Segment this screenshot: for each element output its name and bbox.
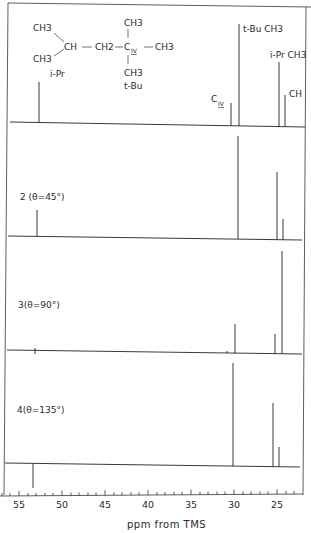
tick-25: 25	[271, 499, 283, 510]
tick-30: 30	[228, 499, 240, 510]
spectrum-1-baseline	[10, 122, 305, 127]
spectrum-2-baseline	[8, 236, 302, 240]
top-left-ch3: CH3	[33, 23, 52, 33]
cquat-atom: C	[124, 42, 130, 52]
spectrum-1-peak-labels: C IV t-Bu CH3 i-Pr CH3 CH	[211, 24, 306, 107]
ch2-group: CH2	[95, 42, 114, 52]
peak-label-tbu: t-Bu CH3	[243, 24, 283, 34]
spectrum-3-baseline	[7, 350, 302, 354]
ch-group: CH	[64, 42, 77, 52]
spectrum-4	[5, 363, 300, 488]
ipr-label: i-Pr	[50, 69, 65, 79]
cquat-subscript: IV	[131, 47, 138, 54]
nmr-figure: CH3 CH3 CH CH2 C IV CH3 CH3 CH3 i-Pr t-B…	[0, 0, 311, 533]
tick-55: 55	[13, 499, 25, 510]
spectrum-2-label: 2 (θ=45°)	[20, 192, 65, 202]
spectrum-4-baseline	[5, 463, 300, 467]
tick-40: 40	[142, 499, 154, 510]
x-axis-minor-ticks	[2, 489, 294, 496]
x-axis	[0, 489, 303, 496]
molecule-structure: CH3 CH3 CH CH2 C IV CH3 CH3 CH3 i-Pr t-B…	[33, 18, 174, 91]
peak-label-ipr: i-Pr CH3	[270, 50, 306, 60]
tick-45: 45	[99, 499, 111, 510]
tick-50: 50	[56, 499, 68, 510]
tick-35: 35	[185, 499, 197, 510]
tbu-label: t-Bu	[124, 81, 142, 91]
x-axis-tick-labels: 55 50 45 40 35 30 25	[13, 499, 283, 510]
bottom-ch3: CH3	[124, 68, 143, 78]
peak-label-civ: C	[211, 94, 217, 104]
top-ch3: CH3	[124, 18, 143, 28]
spectrum-3-label: 3(θ=90°)	[18, 300, 60, 310]
bottom-left-ch3: CH3	[33, 54, 52, 64]
spectrum-4-label: 4(θ=135°)	[17, 405, 64, 415]
x-axis-title: ppm from TMS	[127, 519, 206, 530]
peak-label-ch: CH	[289, 89, 302, 99]
peak-label-civ-sub: IV	[218, 100, 225, 107]
spectrum-2	[8, 136, 302, 240]
right-ch3: CH3	[155, 42, 174, 52]
